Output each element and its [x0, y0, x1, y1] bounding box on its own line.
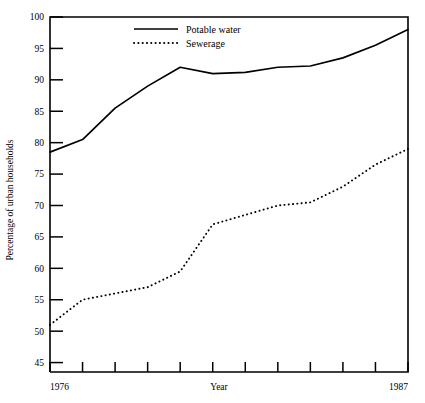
x-tick-label-end: 1987 [389, 382, 408, 392]
series-line-potable-water [50, 30, 408, 153]
chart-legend: Potable water Sewerage [134, 24, 241, 49]
y-tick-label-45: 45 [35, 358, 45, 368]
x-axis-title: Year [210, 382, 228, 392]
y-tick-label-85: 85 [35, 107, 45, 117]
line-chart: 4550556065707580859095100 1976 1987 Year… [0, 0, 425, 403]
chart-figure: 4550556065707580859095100 1976 1987 Year… [0, 0, 425, 403]
y-tick-label-50: 50 [35, 327, 45, 337]
legend-label-potable-water: Potable water [186, 24, 241, 35]
y-tick-label-90: 90 [35, 75, 45, 85]
y-axis-title: Percentage of urban households [5, 139, 15, 260]
x-tick-label-start: 1976 [50, 382, 69, 392]
y-tick-label-75: 75 [35, 169, 45, 179]
y-tick-label-65: 65 [35, 232, 45, 242]
y-tick-label-70: 70 [35, 201, 45, 211]
y-tick-label-100: 100 [30, 12, 45, 22]
y-tick-label-60: 60 [35, 264, 45, 274]
y-tick-label-55: 55 [35, 295, 45, 305]
plot-frame [50, 17, 408, 372]
y-axis-tick-labels: 4550556065707580859095100 [30, 12, 45, 368]
series-line-sewerage [50, 149, 408, 325]
legend-label-sewerage: Sewerage [186, 38, 225, 49]
x-axis-ticks [50, 362, 408, 372]
y-axis-ticks [50, 17, 63, 363]
y-tick-label-80: 80 [35, 138, 45, 148]
y-tick-label-95: 95 [35, 44, 45, 54]
